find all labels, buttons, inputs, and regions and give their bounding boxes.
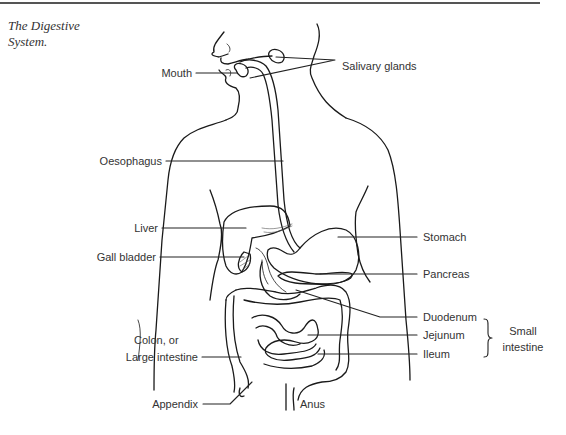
leader-appendix bbox=[203, 382, 252, 404]
digestive-system-illustration bbox=[0, 0, 566, 435]
label-ileum: Ileum bbox=[423, 348, 450, 361]
label-small-intestine-line1: Small bbox=[500, 325, 546, 338]
leader-lines bbox=[160, 57, 417, 404]
label-colon-line2: Large intestine bbox=[110, 351, 198, 364]
label-small-intestine-line2: intestine bbox=[500, 341, 546, 354]
label-liver: Liver bbox=[110, 222, 158, 235]
colon bbox=[225, 285, 350, 400]
label-oesophagus: Oesophagus bbox=[80, 155, 162, 168]
salivary-gland-lower bbox=[234, 63, 248, 76]
label-duodenum: Duodenum bbox=[423, 311, 477, 324]
label-pancreas: Pancreas bbox=[423, 268, 469, 281]
leader-salivary bbox=[250, 57, 335, 78]
leader-duodenum bbox=[296, 290, 417, 317]
label-anus: Anus bbox=[300, 398, 325, 411]
label-mouth: Mouth bbox=[144, 67, 192, 80]
rectum-right bbox=[293, 388, 294, 410]
label-jejunum: Jejunum bbox=[423, 329, 465, 342]
label-small-intestine: Small intestine bbox=[500, 325, 546, 354]
oesophagus-tube bbox=[240, 60, 300, 252]
label-appendix: Appendix bbox=[140, 398, 198, 411]
torso-outline bbox=[138, 118, 410, 390]
label-gall-bladder: Gall bladder bbox=[76, 251, 156, 264]
label-stomach: Stomach bbox=[423, 231, 466, 244]
label-colon-line1: Colon, or bbox=[134, 334, 179, 347]
label-salivary-glands: Salivary glands bbox=[342, 60, 417, 73]
small-intestine-brace bbox=[484, 319, 492, 357]
small-intestine-coils bbox=[252, 315, 325, 368]
